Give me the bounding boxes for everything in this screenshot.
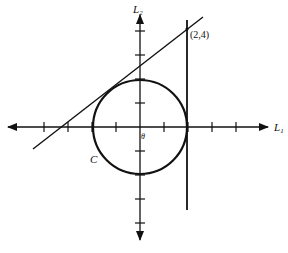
l1-axis xyxy=(8,122,268,132)
l1-axis-label: L1 xyxy=(273,121,284,135)
diagram-canvas: L2 L1 θ C (2,4) xyxy=(0,0,288,253)
origin-label: θ xyxy=(141,132,145,141)
l2-axis-label: L2 xyxy=(132,3,143,17)
point-label: (2,4) xyxy=(190,29,209,41)
point-2-4 xyxy=(185,27,188,30)
tangent-line xyxy=(33,17,203,149)
curve-c-label: C xyxy=(90,153,98,165)
